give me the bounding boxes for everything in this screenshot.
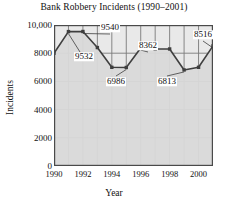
data-point-labels: 953295406986836268138516 <box>0 0 228 206</box>
x-axis-title: Year <box>0 188 228 198</box>
data-value-label: 9540 <box>100 23 120 32</box>
data-value-label: 6813 <box>157 77 177 86</box>
data-value-label: 6986 <box>106 77 126 86</box>
chart-figure: Bank Robbery Incidents (1990–2001) Incid… <box>0 0 228 206</box>
data-value-label: 8516 <box>193 30 213 39</box>
data-value-label: 8362 <box>138 41 158 50</box>
data-value-label: 9532 <box>74 52 94 61</box>
